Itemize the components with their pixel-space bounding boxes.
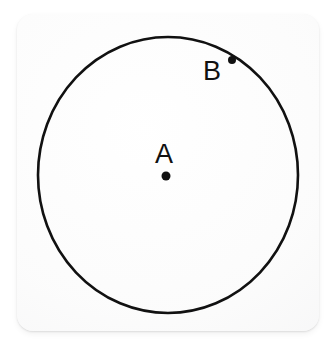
point-b-label: B xyxy=(203,58,221,85)
diagram-canvas: A B xyxy=(0,0,336,349)
point-a-dot xyxy=(162,172,171,181)
circle-figure xyxy=(0,0,336,349)
point-a-label: A xyxy=(155,141,173,168)
point-b-dot xyxy=(228,56,236,64)
